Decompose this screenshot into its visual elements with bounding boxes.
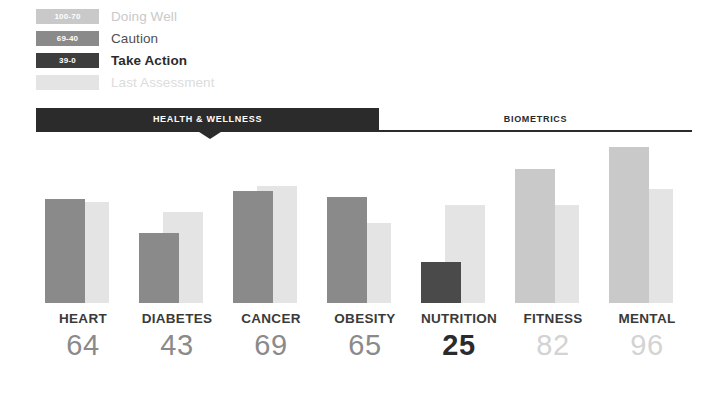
legend-swatch-last-assessment [36, 75, 99, 90]
chart-column-bars [600, 140, 694, 303]
chart-score-value: 82 [506, 330, 600, 362]
chart-column[interactable]: DIABETES43 [130, 140, 224, 390]
chart-column-bars [224, 140, 318, 303]
chart-column-bars [36, 140, 130, 303]
legend-swatch-caution: 69-40 [36, 31, 99, 46]
legend-item: Last Assessment [36, 72, 336, 93]
bar-current-score [233, 191, 273, 303]
chart-column[interactable]: OBESITY65 [318, 140, 412, 390]
tab-health-and-wellness-label: HEALTH & WELLNESS [153, 114, 262, 124]
chart-category-label: HEART [36, 312, 130, 326]
chart-column[interactable]: FITNESS82 [506, 140, 600, 390]
bar-current-score [421, 262, 461, 303]
legend-range-take-action: 39-0 [59, 57, 76, 65]
chart-column[interactable]: HEART64 [36, 140, 130, 390]
chart-column-bars [130, 140, 224, 303]
bar-current-score [327, 197, 367, 303]
tab-bar-underline [36, 130, 692, 132]
chart-category-label: CANCER [224, 312, 318, 326]
legend-label-doing-well: Doing Well [111, 10, 177, 24]
chart-category-label: NUTRITION [412, 312, 506, 326]
bar-current-score [45, 199, 85, 303]
chart-score-value: 25 [412, 330, 506, 362]
chart-score-value: 64 [36, 330, 130, 362]
tab-biometrics-label: BIOMETRICS [504, 114, 568, 124]
health-scores-bar-chart: HEART64DIABETES43CANCER69OBESITY65NUTRIT… [36, 140, 696, 390]
chart-column[interactable]: NUTRITION25 [412, 140, 506, 390]
score-band-legend: 100-70 Doing Well 69-40 Caution 39-0 Tak… [36, 6, 336, 94]
tab-health-and-wellness[interactable]: HEALTH & WELLNESS [36, 108, 379, 130]
legend-item: 39-0 Take Action [36, 50, 336, 71]
legend-label-caution: Caution [111, 32, 158, 46]
chart-score-value: 65 [318, 330, 412, 362]
chart-column-bars [506, 140, 600, 303]
chart-score-value: 43 [130, 330, 224, 362]
legend-label-take-action: Take Action [111, 54, 187, 68]
active-tab-pointer-icon [196, 130, 224, 139]
chart-column-bars [412, 140, 506, 303]
legend-range-doing-well: 100-70 [54, 13, 80, 21]
chart-score-value: 69 [224, 330, 318, 362]
legend-swatch-doing-well: 100-70 [36, 9, 99, 24]
chart-column[interactable]: MENTAL96 [600, 140, 694, 390]
chart-column[interactable]: CANCER69 [224, 140, 318, 390]
chart-category-label: MENTAL [600, 312, 694, 326]
chart-category-label: FITNESS [506, 312, 600, 326]
tab-biometrics[interactable]: BIOMETRICS [379, 108, 692, 130]
category-tab-bar: HEALTH & WELLNESS BIOMETRICS [36, 108, 692, 132]
legend-item: 100-70 Doing Well [36, 6, 336, 27]
chart-category-label: DIABETES [130, 312, 224, 326]
chart-score-value: 96 [600, 330, 694, 362]
bar-current-score [609, 147, 649, 303]
chart-column-bars [318, 140, 412, 303]
chart-category-label: OBESITY [318, 312, 412, 326]
bar-current-score [139, 233, 179, 303]
legend-swatch-take-action: 39-0 [36, 53, 99, 68]
legend-label-last-assessment: Last Assessment [111, 76, 215, 90]
legend-range-caution: 69-40 [57, 35, 78, 43]
legend-item: 69-40 Caution [36, 28, 336, 49]
bar-current-score [515, 169, 555, 303]
